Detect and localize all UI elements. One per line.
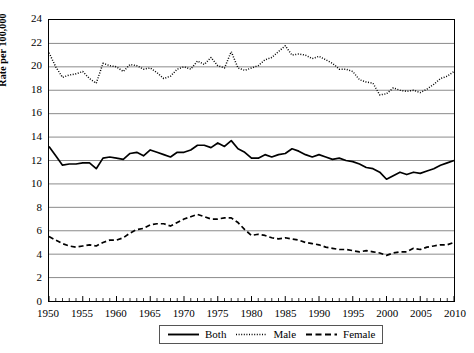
y-tick-label: 24 (16, 13, 42, 24)
legend-swatch-solid (167, 330, 200, 339)
legend-entry-female[interactable]: Female (305, 329, 375, 340)
legend-label: Female (343, 329, 375, 340)
y-tick-label: 4 (16, 249, 42, 260)
y-tick-label: 14 (16, 131, 42, 142)
y-tick-label: 0 (16, 296, 42, 307)
y-tick-label: 20 (16, 60, 42, 71)
legend-entry-male[interactable]: Male (235, 329, 296, 340)
y-tick-label: 6 (16, 225, 42, 236)
legend-entry-both[interactable]: Both (167, 329, 226, 340)
legend: BothMaleFemale (159, 325, 383, 344)
y-tick-label: 10 (16, 178, 42, 189)
y-tick-label: 2 (16, 272, 42, 283)
legend-label: Male (273, 329, 296, 340)
legend-swatch-dashed (305, 330, 338, 339)
y-tick-label: 8 (16, 202, 42, 213)
y-tick-label: 12 (16, 155, 42, 166)
chart-figure: Rate per 100,000 024681012141618202224 1… (0, 0, 474, 353)
y-axis-title: Rate per 100,000 (0, 0, 8, 120)
legend-swatch-dotted (235, 330, 268, 339)
legend-label: Both (205, 329, 226, 340)
y-tick-label: 18 (16, 84, 42, 95)
x-tick-label: 2010 (435, 308, 474, 319)
y-tick-label: 22 (16, 37, 42, 48)
plot-area (48, 19, 455, 302)
axis-tick-marks (49, 20, 454, 301)
y-tick-label: 16 (16, 107, 42, 118)
